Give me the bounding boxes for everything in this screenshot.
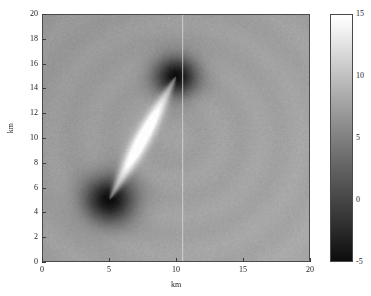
- y-tick-label: 20: [12, 10, 38, 18]
- x-tick-label: 0: [28, 266, 56, 274]
- y-tick-mark: [42, 237, 46, 238]
- y-tick-mark: [42, 188, 46, 189]
- y-axis-label: km: [7, 118, 15, 138]
- x-tick-mark: [176, 258, 177, 262]
- y-tick-label: 4: [12, 208, 38, 216]
- x-tick-mark: [109, 258, 110, 262]
- y-tick-label: 18: [12, 35, 38, 43]
- x-tick-label: 15: [229, 266, 257, 274]
- x-tick-label: 10: [162, 266, 190, 274]
- colorbar: [330, 14, 353, 262]
- heatmap-image: [43, 15, 309, 261]
- x-axis-label: km: [146, 281, 206, 289]
- colorbar-tick-label: 10: [356, 72, 364, 80]
- colorbar-gradient: [330, 14, 353, 262]
- y-tick-label: 10: [12, 134, 38, 142]
- y-tick-mark: [42, 14, 46, 15]
- y-tick-label: 12: [12, 109, 38, 117]
- colorbar-tick-label: 5: [356, 134, 360, 142]
- x-tick-label: 20: [296, 266, 324, 274]
- x-tick-mark: [310, 258, 311, 262]
- y-tick-label: 0: [12, 258, 38, 266]
- y-tick-mark: [42, 88, 46, 89]
- y-tick-label: 6: [12, 184, 38, 192]
- x-tick-label: 5: [95, 266, 123, 274]
- y-tick-mark: [42, 113, 46, 114]
- colorbar-tick-label: 15: [356, 10, 364, 18]
- heatmap-figure: 02468101214161820 05101520 km km 151050-…: [0, 0, 371, 296]
- x-tick-mark: [243, 258, 244, 262]
- colorbar-tick-label: 0: [356, 196, 360, 204]
- y-tick-mark: [42, 138, 46, 139]
- y-tick-mark: [42, 39, 46, 40]
- y-tick-label: 2: [12, 233, 38, 241]
- x-tick-mark: [42, 258, 43, 262]
- y-tick-mark: [42, 212, 46, 213]
- y-tick-mark: [42, 64, 46, 65]
- y-tick-mark: [42, 163, 46, 164]
- plot-area: [42, 14, 310, 262]
- colorbar-tick-label: -5: [356, 258, 363, 266]
- y-tick-label: 14: [12, 84, 38, 92]
- y-tick-label: 16: [12, 60, 38, 68]
- y-tick-mark: [42, 262, 46, 263]
- y-tick-label: 8: [12, 159, 38, 167]
